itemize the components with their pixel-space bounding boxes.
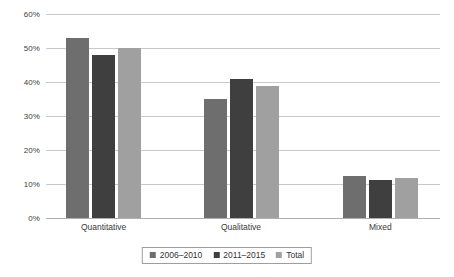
bar-group-mixed — [343, 14, 418, 218]
y-tick-label: 40% — [24, 78, 40, 87]
bar-qualitative-2006–2010[interactable] — [204, 99, 227, 218]
bar-mixed-2011–2015[interactable] — [369, 180, 392, 218]
legend-swatch-icon — [276, 252, 282, 258]
bar-qualitative-2011–2015[interactable] — [230, 79, 253, 218]
bar-quantitative-2006–2010[interactable] — [66, 38, 89, 218]
chart-legend: 2006–20102011–2015Total — [142, 247, 312, 264]
legend-item-2006–2010[interactable]: 2006–2010 — [150, 250, 203, 260]
y-tick-label: 60% — [24, 10, 40, 19]
y-tick-label: 20% — [24, 146, 40, 155]
plot-area — [46, 14, 440, 218]
x-tick-label-mixed: Mixed — [369, 222, 392, 232]
legend-swatch-icon — [213, 252, 219, 258]
bar-group-quantitative — [66, 14, 141, 218]
bar-quantitative-Total[interactable] — [118, 48, 141, 218]
y-tick-label: 0% — [28, 214, 40, 223]
y-tick-label: 30% — [24, 112, 40, 121]
bar-quantitative-2011–2015[interactable] — [92, 55, 115, 218]
bar-group-qualitative — [204, 14, 279, 218]
legend-swatch-icon — [150, 252, 156, 258]
legend-label: 2011–2015 — [223, 250, 265, 260]
legend-item-Total[interactable]: Total — [276, 250, 304, 260]
bar-mixed-2006–2010[interactable] — [343, 176, 366, 218]
x-tick-label-qualitative: Qualitative — [221, 222, 261, 232]
bar-mixed-Total[interactable] — [395, 178, 418, 218]
x-tick-label-quantitative: Quantitative — [81, 222, 126, 232]
bar-groups — [46, 14, 440, 218]
y-tick-label: 10% — [24, 180, 40, 189]
legend-label: Total — [286, 250, 304, 260]
legend-item-2011–2015[interactable]: 2011–2015 — [213, 250, 265, 260]
bar-chart: 0%10%20%30%40%50%60% QuantitativeQualita… — [0, 0, 454, 277]
x-axis-labels: QuantitativeQualitativeMixed — [46, 222, 440, 238]
legend-label: 2006–2010 — [160, 250, 203, 260]
gridline-0 — [46, 218, 440, 219]
y-axis-labels: 0%10%20%30%40%50%60% — [0, 14, 40, 218]
y-tick-label: 50% — [24, 44, 40, 53]
bar-qualitative-Total[interactable] — [256, 86, 279, 218]
